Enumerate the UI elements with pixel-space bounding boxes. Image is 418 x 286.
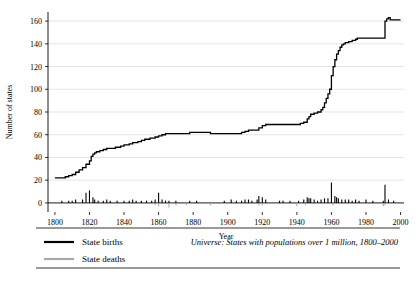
series-state-births-line [55,18,401,178]
y-tick-label-80: 80 [34,108,42,117]
y-tick-label-20: 20 [34,176,42,185]
y-tick-label-140: 140 [30,40,42,49]
legend-label-state-births: State births [82,237,123,247]
y-tick-label-120: 120 [30,63,42,72]
chart-container: 0204060801001201401601800182018401860188… [0,0,418,286]
y-tick-label-0: 0 [38,199,42,208]
y-axis-title: Number of states [5,85,14,140]
legend-universe-note: Universe: States with populations over 1… [191,237,399,247]
legend-label-state-deaths: State deaths [82,254,126,264]
y-tick-label-160: 160 [30,17,42,26]
series-state-births-spikes [62,182,394,202]
series-state-deaths-spikes [65,203,385,208]
y-tick-label-100: 100 [30,85,42,94]
y-tick-label-60: 60 [34,131,42,140]
y-tick-label-40: 40 [34,153,42,162]
chart-legend: State birthsState deathsUniverse: States… [0,226,418,286]
